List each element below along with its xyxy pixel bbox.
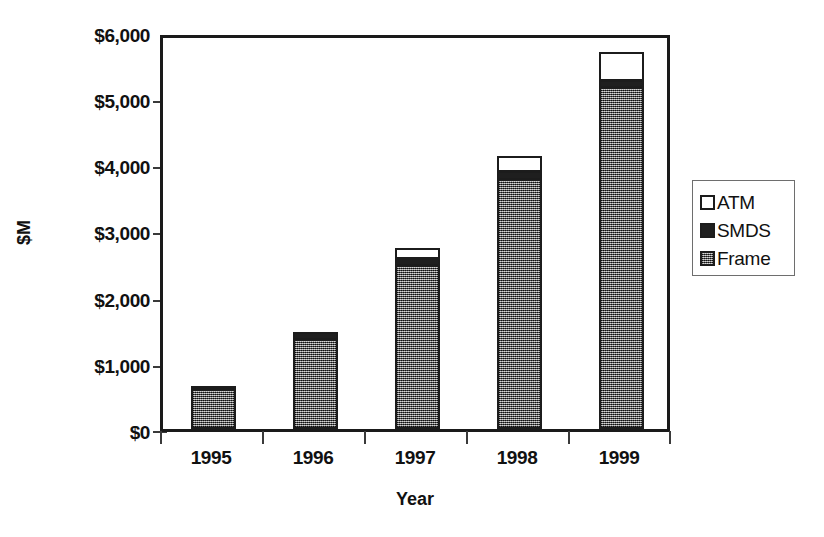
legend-item-atm[interactable]: ATM xyxy=(700,188,794,216)
y-tick-label-5000: $5,000 xyxy=(20,92,150,111)
x-tick-mark-1 xyxy=(262,431,264,444)
plot-area xyxy=(160,35,670,432)
x-tick-label-1996: 1996 xyxy=(262,447,364,469)
bar-segment-atm-1999 xyxy=(599,52,644,81)
x-axis-title: Year xyxy=(160,489,670,510)
bar-segment-frame-1998 xyxy=(497,179,542,429)
legend-item-frame[interactable]: Frame xyxy=(700,244,794,272)
bar-1997[interactable] xyxy=(395,252,440,429)
bar-1996[interactable] xyxy=(293,332,338,429)
y-tick-label-1000: $1,000 xyxy=(20,357,150,376)
x-tick-label-1999: 1999 xyxy=(568,447,670,469)
legend-swatch-smds-icon xyxy=(700,223,715,238)
legend-swatch-atm-icon xyxy=(700,195,715,210)
bar-segment-frame-1997 xyxy=(395,265,440,429)
bar-segment-atm-1998 xyxy=(497,156,542,172)
legend-item-smds[interactable]: SMDS xyxy=(700,216,794,244)
x-tick-mark-5 xyxy=(669,431,671,444)
bar-1995[interactable] xyxy=(191,388,236,429)
y-axis: $6,000 $5,000 $4,000 $3,000 $2,000 $1,00… xyxy=(0,0,150,537)
x-tick-mark-4 xyxy=(568,431,570,444)
legend: ATM SMDS Frame xyxy=(692,180,795,276)
bar-segment-frame-1995 xyxy=(191,389,236,429)
x-tick-label-1998: 1998 xyxy=(466,447,568,469)
y-tick-label-0: $0 xyxy=(20,423,150,442)
legend-label-smds: SMDS xyxy=(717,221,771,240)
legend-label-frame: Frame xyxy=(717,249,770,268)
bar-segment-frame-1999 xyxy=(599,87,644,429)
y-tick-label-2000: $2,000 xyxy=(20,291,150,310)
legend-label-atm: ATM xyxy=(717,193,755,212)
y-tick-label-4000: $4,000 xyxy=(20,158,150,177)
x-tick-label-1997: 1997 xyxy=(364,447,466,469)
x-tick-mark-2 xyxy=(364,431,366,444)
legend-swatch-frame-icon xyxy=(700,251,715,266)
y-tick-label-6000: $6,000 xyxy=(20,26,150,45)
bar-1999[interactable] xyxy=(599,54,644,429)
x-tick-label-1995: 1995 xyxy=(160,447,262,469)
chart-container: $M $6,000 $5,000 $4,000 $3,000 $2,000 $1… xyxy=(0,0,824,537)
x-tick-mark-3 xyxy=(466,431,468,444)
bar-1998[interactable] xyxy=(497,159,542,429)
x-tick-mark-0 xyxy=(160,431,162,444)
bar-segment-frame-1996 xyxy=(293,339,338,429)
y-tick-label-3000: $3,000 xyxy=(20,224,150,243)
